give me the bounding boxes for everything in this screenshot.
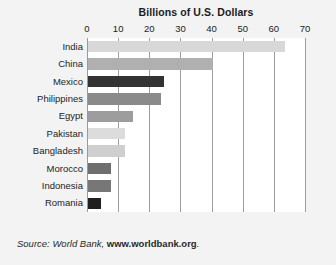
category-label-bangladesh: Bangladesh xyxy=(0,145,83,156)
bar-row xyxy=(88,125,306,142)
category-label-philippines: Philippines xyxy=(0,93,83,104)
source-prefix: Source: World Bank, xyxy=(17,238,107,249)
bar-china xyxy=(88,58,213,70)
bar-row xyxy=(88,177,306,194)
bar-row xyxy=(88,108,306,125)
bar-row xyxy=(88,73,306,90)
x-axis-tick-labels: 010203040506070 xyxy=(87,23,305,37)
category-label-india: India xyxy=(0,41,83,52)
bar-row xyxy=(88,195,306,212)
category-label-romania: Romania xyxy=(0,197,83,208)
bar-egypt xyxy=(88,111,133,123)
category-label-mexico: Mexico xyxy=(0,76,83,87)
category-label-egypt: Egypt xyxy=(0,110,83,121)
category-label-indonesia: Indonesia xyxy=(0,180,83,191)
x-tick-label-20: 20 xyxy=(144,23,155,34)
x-tick-label-0: 0 xyxy=(84,23,89,34)
chart-figure: Billions of U.S. Dollars 010203040506070… xyxy=(0,0,336,265)
bar-morocco xyxy=(88,163,111,175)
bar-row xyxy=(88,160,306,177)
bar-row xyxy=(88,55,306,72)
bar-india xyxy=(88,41,285,53)
category-label-morocco: Morocco xyxy=(0,163,83,174)
x-tick-label-40: 40 xyxy=(206,23,217,34)
bar-philippines xyxy=(88,93,161,105)
bar-romania xyxy=(88,198,101,210)
x-tick-label-60: 60 xyxy=(269,23,280,34)
bar-indonesia xyxy=(88,180,111,192)
source-note: Source: World Bank, www.worldbank.org. xyxy=(17,238,199,249)
bar-row xyxy=(88,142,306,159)
x-tick-label-10: 10 xyxy=(113,23,124,34)
source-url: www.worldbank.org xyxy=(107,238,197,249)
bar-pakistan xyxy=(88,128,125,140)
x-tick-label-30: 30 xyxy=(175,23,186,34)
plot-area xyxy=(87,38,306,212)
category-axis-labels: IndiaChinaMexicoPhilippinesEgyptPakistan… xyxy=(0,38,83,212)
category-label-pakistan: Pakistan xyxy=(0,128,83,139)
bar-bangladesh xyxy=(88,145,125,157)
bar-mexico xyxy=(88,76,164,88)
bar-row xyxy=(88,90,306,107)
x-tick-label-70: 70 xyxy=(300,23,311,34)
category-label-china: China xyxy=(0,58,83,69)
bar-row xyxy=(88,38,306,55)
bar-series xyxy=(88,38,306,212)
x-tick-label-50: 50 xyxy=(237,23,248,34)
source-suffix: . xyxy=(197,238,200,249)
chart-title: Billions of U.S. Dollars xyxy=(87,6,305,18)
